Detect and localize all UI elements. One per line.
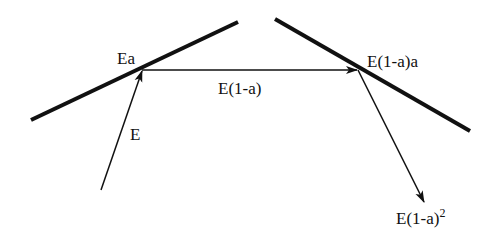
surface-left <box>31 22 238 120</box>
surface-right <box>275 19 470 131</box>
label-reflected-second-base: E(1-a) <box>396 209 439 228</box>
diagram-canvas: Ea E E(1-a) E(1-a)a E(1-a)2 <box>0 0 492 240</box>
label-reflected-second: E(1-a)2 <box>396 206 445 228</box>
label-absorbed-second: E(1-a)a <box>367 52 418 71</box>
label-reflected-first: E(1-a) <box>218 79 261 98</box>
label-absorbed-first: Ea <box>117 49 135 68</box>
label-reflected-second-exp: 2 <box>439 206 445 220</box>
label-incident: E <box>130 125 140 144</box>
reflected-arrow-2 <box>358 70 424 202</box>
diagram-svg: Ea E E(1-a) E(1-a)a E(1-a)2 <box>0 0 492 240</box>
